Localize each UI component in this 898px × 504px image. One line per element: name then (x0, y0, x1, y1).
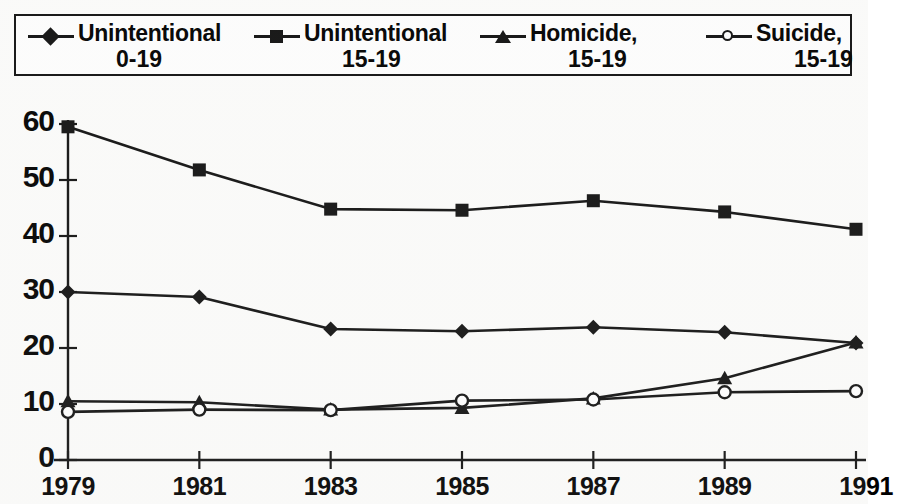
square-icon (270, 30, 283, 43)
data-point (456, 395, 468, 407)
chart-legend: Unintentional0-19Unintentional15-19Homic… (14, 14, 852, 76)
data-point (456, 204, 469, 217)
y-tick-label: 60 (0, 104, 54, 138)
legend-symbol (721, 29, 736, 44)
marker-circle-icon (456, 395, 468, 407)
marker-circle-icon (325, 404, 337, 416)
legend-symbol (269, 29, 284, 44)
x-tick-label: 1979 (18, 472, 118, 501)
x-tick-label: 1985 (412, 472, 512, 501)
marker-circle-icon (193, 404, 205, 416)
x-tick-label: 1981 (149, 472, 249, 501)
legend-symbol (495, 29, 510, 44)
data-point (586, 320, 601, 335)
legend-marker-diamond-icon (28, 29, 74, 43)
legend-label-line1: Suicide, (756, 20, 842, 47)
legend-row: Unintentional0-19Unintentional15-19Homic… (16, 16, 850, 74)
data-point (193, 163, 206, 176)
data-point (850, 385, 862, 397)
y-tick-label: 30 (0, 272, 54, 306)
x-tick-label: 1989 (675, 472, 775, 501)
legend-symbol (43, 29, 58, 44)
data-point (193, 404, 205, 416)
series-unintentional-15-19 (62, 120, 863, 235)
marker-diamond-icon (455, 324, 470, 339)
data-point (717, 325, 732, 340)
marker-circle-icon (719, 386, 731, 398)
plot-area: 0102030405060 19791981198319851987198919… (0, 84, 868, 504)
legend-label-line1: Unintentional (78, 20, 221, 47)
legend-label-line2: 15-19 (568, 46, 627, 73)
legend-label-line2: 15-19 (794, 46, 853, 73)
data-point (719, 386, 731, 398)
y-tick-label: 50 (0, 160, 54, 194)
data-point (62, 406, 74, 418)
data-point (62, 120, 75, 133)
y-tick-label: 0 (0, 440, 54, 474)
data-point (587, 194, 600, 207)
diamond-icon (41, 27, 59, 45)
marker-diamond-icon (192, 290, 207, 305)
data-point (61, 285, 76, 300)
data-point (718, 205, 731, 218)
marker-circle-icon (62, 406, 74, 418)
triangle-icon (495, 30, 511, 43)
marker-square-icon (850, 223, 863, 236)
marker-diamond-icon (61, 285, 76, 300)
marker-circle-icon (850, 385, 862, 397)
x-tick-label: 1987 (543, 472, 643, 501)
marker-diamond-icon (586, 320, 601, 335)
data-point (323, 321, 338, 336)
legend-label-line2: 0-19 (116, 46, 162, 73)
marker-circle-icon (587, 394, 599, 406)
data-point (850, 223, 863, 236)
y-tick-label: 20 (0, 328, 54, 362)
marker-square-icon (718, 205, 731, 218)
data-point (192, 290, 207, 305)
marker-square-icon (62, 120, 75, 133)
data-point (324, 203, 337, 216)
legend-label-line1: Unintentional (304, 20, 447, 47)
legend-label-line1: Homicide, (530, 20, 637, 47)
marker-diamond-icon (717, 325, 732, 340)
legend-marker-triangle-icon (480, 29, 526, 43)
legend-marker-square-icon (254, 29, 300, 43)
y-tick-label: 40 (0, 216, 54, 250)
legend-marker-circle-icon (706, 29, 752, 43)
y-tick-label: 10 (0, 384, 54, 418)
marker-diamond-icon (323, 321, 338, 336)
data-point (325, 404, 337, 416)
circle-icon (722, 30, 733, 41)
data-point (455, 324, 470, 339)
legend-label-line2: 15-19 (342, 46, 401, 73)
marker-square-icon (587, 194, 600, 207)
marker-square-icon (456, 204, 469, 217)
series-unintentional-0-19 (61, 285, 864, 351)
data-point (587, 394, 599, 406)
x-tick-label: 1983 (281, 472, 381, 501)
x-tick-label: 1991 (816, 472, 898, 501)
marker-square-icon (324, 203, 337, 216)
chart-canvas (0, 84, 868, 504)
marker-square-icon (193, 163, 206, 176)
